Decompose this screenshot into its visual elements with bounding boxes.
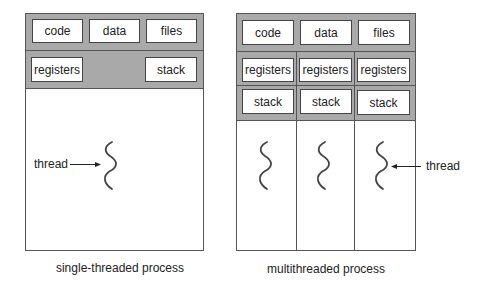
multi-thread-label: thread [426,159,460,173]
multi-caption: multithreaded process [236,262,416,276]
multi-thread-arrow-icon [0,0,478,284]
